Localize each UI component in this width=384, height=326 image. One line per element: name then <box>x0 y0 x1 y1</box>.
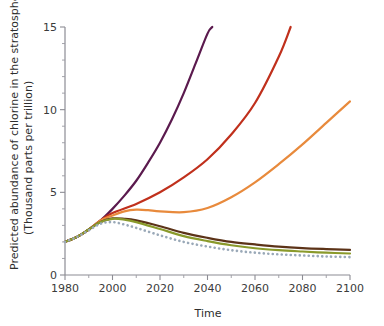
x-tick-label: 2000 <box>99 282 127 295</box>
x-axis: 1980200020202040206020802100 <box>51 275 364 295</box>
line-chart: Predicted abundance of chlorine in the s… <box>0 0 384 326</box>
y-axis-title: Predicted abundance of chlorine in the s… <box>8 0 35 270</box>
x-tick-label: 2080 <box>289 282 317 295</box>
series-lines <box>65 27 350 257</box>
y-tick-label: 10 <box>43 104 57 117</box>
y-tick-label: 5 <box>50 186 57 199</box>
y-axis-title-line1: Predicted abundance of chlorine in the s… <box>8 0 21 270</box>
y-tick-label: 15 <box>43 21 57 34</box>
y-axis: 051015 <box>43 21 65 282</box>
x-tick-label: 2060 <box>241 282 269 295</box>
chart-figure: Predicted abundance of chlorine in the s… <box>0 0 384 326</box>
x-axis-title: Time <box>194 307 222 320</box>
x-tick-label: 1980 <box>51 282 79 295</box>
x-tick-label: 2040 <box>194 282 222 295</box>
y-tick-label: 0 <box>50 269 57 282</box>
series-line-london-1990 <box>65 101 350 242</box>
y-axis-title-line2: (Thousand parts per trillion) <box>22 81 35 235</box>
x-tick-label: 2020 <box>146 282 174 295</box>
series-line-montreal-1987 <box>65 27 291 242</box>
x-tick-label: 2100 <box>336 282 364 295</box>
series-line-copenhagen-1992 <box>65 218 350 250</box>
